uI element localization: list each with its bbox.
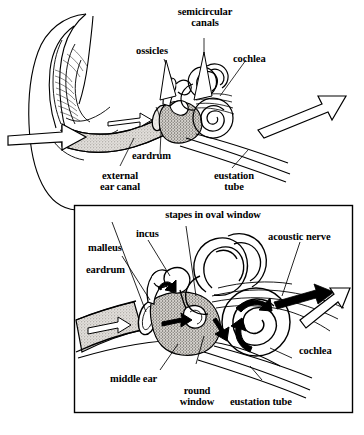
label-cochlea-overview: cochlea bbox=[233, 53, 266, 65]
label-external-ear-canal-line2: ear canal bbox=[78, 181, 162, 193]
label-stapes-in-oval-window: stapes in oval window bbox=[140, 209, 286, 221]
label-incus: incus bbox=[136, 228, 159, 240]
label-malleus: malleus bbox=[88, 242, 122, 254]
sound-out-arrow bbox=[258, 96, 346, 138]
label-semicircular-canals-line2: canals bbox=[158, 17, 252, 29]
label-eustation-tube-overview-line2: tube bbox=[196, 181, 272, 193]
label-acoustic-nerve: acoustic nerve bbox=[268, 231, 330, 243]
label-eardrum-detail: eardrum bbox=[86, 264, 125, 276]
label-middle-ear: middle ear bbox=[110, 373, 157, 385]
label-cochlea-detail: cochlea bbox=[299, 345, 332, 357]
ear-anatomy-figure: semicircular canals ossicles cochlea ear… bbox=[0, 0, 364, 435]
label-round-window-line2: window bbox=[168, 396, 226, 408]
label-eustation-tube-detail: eustation tube bbox=[230, 396, 292, 408]
label-eardrum-overview: eardrum bbox=[132, 150, 171, 162]
overview-panel-art bbox=[8, 14, 346, 210]
label-external-ear-canal-line1: external bbox=[78, 170, 162, 182]
label-round-window-line1: round bbox=[168, 385, 226, 397]
label-ossicles: ossicles bbox=[136, 45, 168, 57]
label-eustation-tube-overview-line1: eustation bbox=[196, 170, 272, 182]
label-semicircular-canals-line1: semicircular bbox=[158, 6, 252, 18]
